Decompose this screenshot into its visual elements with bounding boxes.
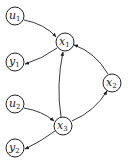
- node-y2: y2: [6, 139, 24, 157]
- node-x1: x1: [56, 33, 74, 51]
- node-u1: u1: [6, 7, 24, 25]
- node-x2: x2: [103, 74, 121, 92]
- edge-x3-x2: [72, 91, 107, 121]
- node-y1: y1: [6, 53, 24, 71]
- graph-diagram: u1 x1 y1 x2 u2 x3 y2: [0, 0, 128, 166]
- edge-x2-x1: [74, 45, 108, 74]
- edge-u2-x3: [24, 108, 54, 121]
- edge-u1-x1: [24, 20, 56, 37]
- edge-x3-x1: [59, 52, 63, 117]
- node-x3: x3: [54, 117, 72, 135]
- edge-x3-y2: [25, 131, 55, 149]
- node-u2: u2: [6, 95, 24, 113]
- edge-x1-y1: [25, 48, 57, 64]
